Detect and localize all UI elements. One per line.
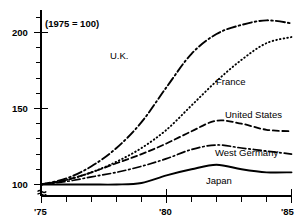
series-line-japan (42, 165, 292, 185)
series-label-japan: Japan (206, 176, 232, 186)
series-label-france: France (216, 77, 246, 87)
series-paths-group (42, 20, 292, 184)
x-tick-label-80: '80 (159, 207, 172, 217)
chart-container: (1975 = 100) 200 150 100 '75 '80 '85 U.K… (0, 0, 304, 224)
series-label-united-states: United States (225, 110, 282, 120)
x-tick-label-85: '85 (281, 207, 294, 217)
chart-note: (1975 = 100) (45, 19, 99, 29)
series-label-west-germany: West Germany (215, 148, 278, 158)
y-axis-minor-ticks (36, 17, 41, 169)
y-tick-label-200: 200 (12, 28, 28, 38)
x-tick-label-75: '75 (34, 207, 47, 217)
series-label-uk: U.K. (110, 51, 128, 61)
y-tick-label-100: 100 (12, 180, 28, 190)
series-line-u-k (42, 20, 292, 184)
y-tick-label-150: 150 (12, 104, 28, 114)
